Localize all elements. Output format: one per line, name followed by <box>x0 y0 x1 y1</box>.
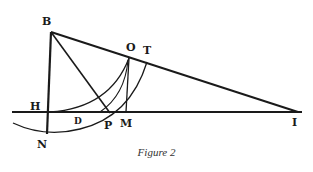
line-b-n <box>47 32 51 134</box>
figure-caption: Figure 2 <box>0 146 313 158</box>
label-i: I <box>292 117 297 128</box>
line-b-p <box>51 32 110 113</box>
label-b: B <box>42 16 51 27</box>
label-m: M <box>120 118 132 129</box>
line-b-i <box>51 32 298 112</box>
label-p: P <box>104 120 112 131</box>
label-o: O <box>126 42 136 53</box>
label-d: D <box>74 117 82 126</box>
label-h: H <box>30 101 40 112</box>
label-t: T <box>143 45 151 56</box>
